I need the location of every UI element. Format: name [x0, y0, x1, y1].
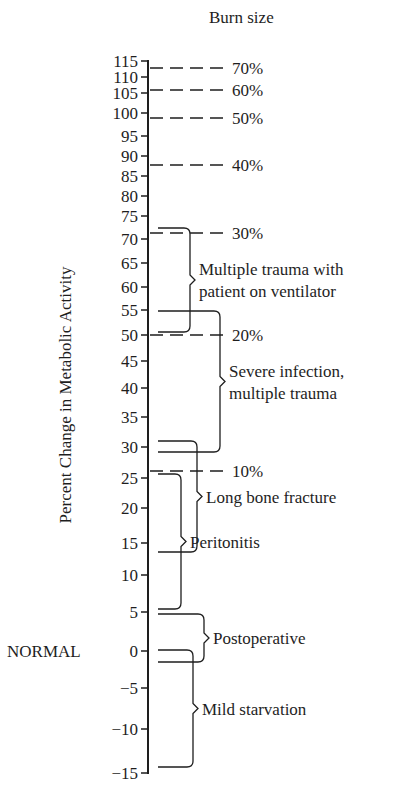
y-tick-label: 65 — [121, 254, 138, 273]
burn-size-title: Burn size — [209, 8, 274, 27]
y-tick-label: 25 — [121, 469, 138, 488]
condition-label: patient on ventilator — [199, 282, 336, 301]
y-tick-label: 40 — [121, 379, 138, 398]
burn-size-label: 10% — [232, 462, 263, 481]
condition-brace — [158, 228, 195, 332]
y-tick-label: 0 — [130, 642, 139, 661]
burn-size-label: 20% — [232, 326, 263, 345]
y-tick-label: 105 — [113, 84, 139, 103]
y-tick-label: −15 — [111, 764, 138, 783]
y-tick-label: −10 — [111, 720, 138, 739]
condition-label: Postoperative — [213, 629, 306, 648]
normal-label: NORMAL — [7, 642, 81, 661]
y-tick-label: 30 — [121, 438, 138, 457]
burn-size-label: 60% — [232, 81, 263, 100]
y-tick-label: 70 — [121, 230, 138, 249]
condition-label: Long bone fracture — [206, 488, 336, 507]
condition-label: Mild starvation — [202, 700, 307, 719]
condition-label: multiple trauma — [229, 384, 338, 403]
metabolic-activity-diagram: Burn size1151101051009590858075706560555… — [0, 0, 416, 810]
y-tick-label: 75 — [121, 207, 138, 226]
y-tick-label: 60 — [121, 278, 138, 297]
burn-size-label: 40% — [232, 156, 263, 175]
condition-label: Severe infection, — [229, 362, 344, 381]
y-tick-label: 55 — [121, 301, 138, 320]
y-tick-label: 5 — [130, 603, 139, 622]
burn-size-label: 30% — [232, 224, 263, 243]
y-tick-label: 50 — [121, 326, 138, 345]
condition-brace — [158, 474, 186, 609]
condition-label: Peritonitis — [190, 533, 260, 552]
y-tick-label: 10 — [121, 566, 138, 585]
condition-label: Multiple trauma with — [199, 260, 344, 279]
y-tick-label: −5 — [120, 679, 138, 698]
y-tick-label: 15 — [121, 534, 138, 553]
y-tick-label: 90 — [121, 147, 138, 166]
condition-brace — [158, 650, 198, 767]
burn-size-label: 50% — [232, 109, 263, 128]
y-tick-label: 100 — [113, 104, 139, 123]
condition-brace — [158, 614, 209, 662]
burn-size-label: 70% — [232, 59, 263, 78]
y-axis-label: Percent Change in Metabolic Activity — [56, 266, 75, 523]
y-tick-label: 35 — [121, 408, 138, 427]
y-tick-label: 45 — [121, 352, 138, 371]
y-tick-label: 85 — [121, 167, 138, 186]
y-tick-label: 80 — [121, 187, 138, 206]
y-tick-label: 20 — [121, 499, 138, 518]
y-tick-label: 95 — [121, 127, 138, 146]
